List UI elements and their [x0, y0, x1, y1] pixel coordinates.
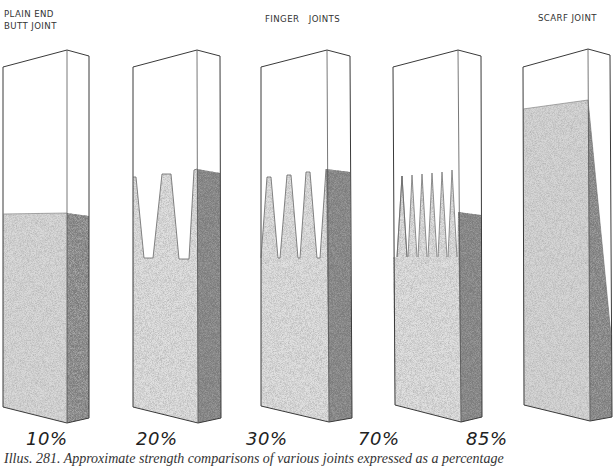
block-butt-joint [3, 50, 89, 423]
strength-label-finger-coarse: 20% [136, 428, 178, 449]
block-scarf-joint [523, 49, 612, 421]
block-finger-joint-medium [261, 50, 352, 422]
strength-label-butt: 10% [26, 428, 68, 449]
figure-caption: Illus. 281. Approximate strength compari… [4, 451, 504, 467]
finger-profile [397, 170, 457, 257]
strength-label-finger-medium: 30% [246, 428, 288, 449]
strength-label-finger-fine: 70% [358, 428, 400, 449]
joint-diagram [0, 0, 614, 450]
block-finger-joint-fine [393, 50, 482, 422]
block-finger-joint-coarse [133, 50, 221, 423]
strength-label-scarf: 85% [466, 428, 508, 449]
